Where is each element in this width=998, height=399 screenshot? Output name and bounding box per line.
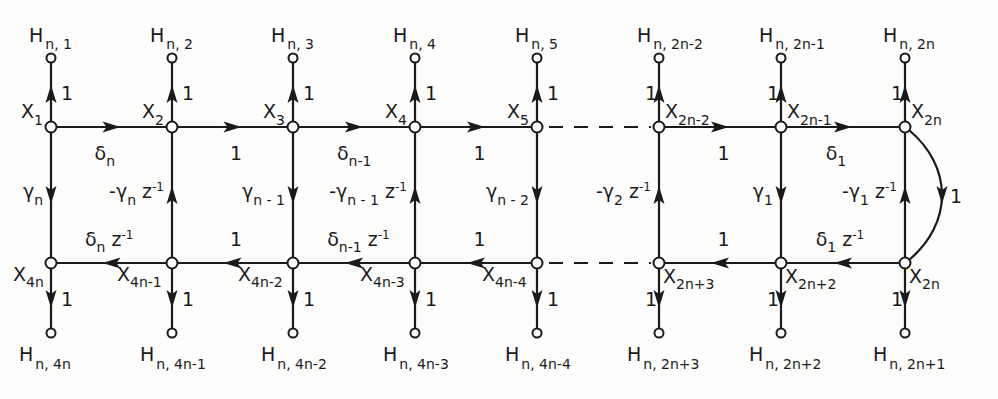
output-terminal-top: [47, 54, 56, 63]
output-terminal-top: [289, 54, 298, 63]
output-label-top: Hn, 5: [515, 24, 558, 52]
output-label-bottom: Hn, 2n+2: [749, 343, 822, 372]
output-gain-label: 1: [61, 288, 73, 310]
node-top: [288, 122, 299, 133]
node-label-top: X4: [385, 100, 407, 128]
node-bottom: [288, 258, 299, 269]
edge-gain-top: 1: [230, 142, 242, 164]
vertical-edge-gain: γn - 1: [242, 180, 285, 208]
output-label-bottom: Hn, 4n-1: [140, 343, 206, 372]
edge-gain-top: δn: [95, 142, 116, 169]
vertical-edge-gain: γn: [23, 180, 43, 208]
output-label-top: Hn, 2n: [883, 24, 935, 52]
labels-layer: Hn, 11Hn, 4n1Hn, 21Hn, 4n-11Hn, 31Hn, 4n…: [13, 24, 962, 372]
vertical-edge-gain: -γn - 1 z-1: [329, 180, 407, 208]
node-top: [167, 122, 178, 133]
node-bottom: [167, 258, 178, 269]
node-bottom: [410, 258, 421, 269]
output-label-bottom: Hn, 4n-3: [383, 343, 449, 372]
output-gain-label: 1: [61, 82, 73, 104]
node-bottom: [46, 258, 57, 269]
output-label-bottom: Hn, 4n-2: [261, 343, 327, 372]
output-terminal-top: [533, 54, 542, 63]
signal-flow-graph: Hn, 11Hn, 4n1Hn, 21Hn, 4n-11Hn, 31Hn, 4n…: [0, 0, 998, 399]
vertical-edge-gain: -γ1 z-1: [842, 180, 897, 208]
edge-gain-bottom: δn-1 z-1: [327, 228, 389, 255]
node-label-top: X2n-2: [665, 100, 710, 128]
node-label-bottom: X2n+2: [785, 265, 836, 292]
edge-gain-top: 1: [718, 142, 730, 164]
output-label-top: Hn, 2: [150, 24, 193, 52]
output-gain-label: 1: [303, 82, 315, 104]
edge-gain-bottom: δ1 z-1: [816, 228, 865, 255]
output-label-top: Hn, 1: [29, 24, 72, 52]
node-label-top: X2: [142, 100, 164, 128]
node-bottom: [532, 258, 543, 269]
output-terminal-bottom: [901, 329, 910, 338]
node-label-bottom: X2n: [909, 265, 940, 292]
edge-gain-bottom: 1: [718, 228, 730, 250]
output-terminal-bottom: [47, 329, 56, 338]
output-gain-label: 1: [182, 82, 194, 104]
output-gain-label: 1: [547, 288, 559, 310]
output-terminal-bottom: [777, 329, 786, 338]
output-label-top: Hn, 4: [393, 24, 436, 52]
output-terminal-top: [901, 54, 910, 63]
output-terminal-bottom: [655, 329, 664, 338]
output-label-bottom: Hn, 4n: [19, 343, 71, 372]
node-label-top: X2n: [911, 100, 942, 128]
output-terminal-top: [168, 54, 177, 63]
node-label-bottom: X4n: [13, 263, 44, 290]
output-gain-label: 1: [182, 288, 194, 310]
node-top: [654, 122, 665, 133]
node-label-bottom: X2n+3: [663, 265, 714, 292]
arc-edge-gain: 1: [950, 185, 962, 207]
output-gain-label: 1: [645, 82, 657, 104]
output-gain-label: 1: [547, 82, 559, 104]
output-label-bottom: Hn, 4n-4: [505, 343, 571, 372]
node-top: [410, 122, 421, 133]
node-top: [900, 122, 911, 133]
edge-gain-bottom: 1: [474, 228, 486, 250]
output-terminal-top: [411, 54, 420, 63]
output-label-top: Hn, 2n-1: [759, 24, 825, 52]
vertical-edge-gain: γ1: [753, 180, 773, 208]
node-top: [46, 122, 57, 133]
vertical-edge-gain: γn - 2: [486, 180, 529, 208]
output-gain-label: 1: [425, 82, 437, 104]
output-terminal-bottom: [168, 329, 177, 338]
output-terminal-bottom: [289, 329, 298, 338]
output-label-bottom: Hn, 2n+3: [627, 343, 700, 372]
output-label-bottom: Hn, 2n+1: [873, 343, 946, 372]
output-gain-label: 1: [303, 288, 315, 310]
node-top: [532, 122, 543, 133]
output-label-top: Hn, 2n-2: [637, 24, 703, 52]
output-gain-label: 1: [767, 82, 779, 104]
edge-gain-bottom: 1: [230, 228, 242, 250]
feedback-arc-edge: [909, 130, 942, 260]
output-gain-label: 1: [891, 82, 903, 104]
node-label-top: X1: [21, 100, 43, 128]
vertical-edge-gain: -γ2 z-1: [596, 180, 651, 208]
node-top: [776, 122, 787, 133]
output-gain-label: 1: [425, 288, 437, 310]
vertical-edge-gain: -γn z-1: [109, 180, 164, 208]
output-terminal-bottom: [533, 329, 542, 338]
output-terminal-top: [777, 54, 786, 63]
output-gain-label: 1: [645, 288, 657, 310]
edge-gain-top: δn-1: [337, 142, 371, 169]
edge-gain-top: 1: [474, 142, 486, 164]
node-label-bottom: X4n-2: [238, 263, 283, 290]
node-label-bottom: X4n-4: [482, 263, 527, 290]
output-gain-label: 1: [891, 288, 903, 310]
output-terminal-top: [655, 54, 664, 63]
node-label-top: X5: [507, 100, 529, 128]
edge-gain-top: δ1: [826, 142, 847, 169]
edge-gain-bottom: δn z-1: [85, 228, 133, 255]
node-label-top: X3: [263, 100, 285, 128]
output-label-top: Hn, 3: [271, 24, 314, 52]
node-label-top: X2n-1: [787, 100, 832, 128]
node-label-bottom: X4n-3: [360, 263, 405, 290]
output-gain-label: 1: [767, 288, 779, 310]
node-label-bottom: X4n-1: [117, 263, 162, 290]
